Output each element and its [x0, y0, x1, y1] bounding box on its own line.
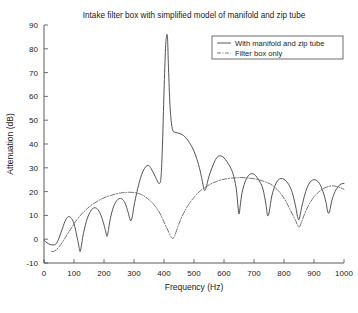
chart-legend: With manifold and zip tubeFilter box onl… — [212, 36, 343, 59]
y-tick-label: -10 — [26, 259, 38, 268]
x-tick-label: 400 — [157, 269, 171, 278]
legend-label-0: With manifold and zip tube — [235, 39, 325, 48]
y-tick-label: 90 — [29, 21, 38, 30]
x-tick-label: 700 — [247, 269, 261, 278]
x-tick-label: 300 — [127, 269, 141, 278]
x-tick-label: 600 — [217, 269, 231, 278]
y-axis-ticks: -100102030405060708090 — [26, 21, 48, 268]
attenuation-line-chart: Intake filter box with simplified model … — [0, 0, 358, 313]
data-series-layer — [44, 34, 344, 251]
x-tick-label: 200 — [97, 269, 111, 278]
x-tick-label: 500 — [187, 269, 201, 278]
series-line-0 — [44, 34, 344, 251]
y-tick-label: 30 — [29, 164, 38, 173]
chart-figure: Intake filter box with simplified model … — [0, 0, 358, 313]
y-tick-label: 40 — [29, 140, 38, 149]
y-tick-label: 80 — [29, 45, 38, 54]
x-axis-ticks: 01002003004005006007008009001000 — [42, 259, 354, 278]
x-tick-label: 800 — [277, 269, 291, 278]
y-tick-label: 70 — [29, 69, 38, 78]
x-tick-label: 1000 — [335, 269, 353, 278]
x-axis-title: Frequency (Hz) — [165, 282, 224, 292]
x-tick-label: 0 — [42, 269, 47, 278]
y-tick-label: 20 — [29, 188, 38, 197]
legend-label-1: Filter box only — [235, 49, 282, 58]
y-tick-label: 10 — [29, 211, 38, 220]
y-tick-label: 50 — [29, 116, 38, 125]
y-axis-title: Attenuation (dB) — [5, 113, 15, 175]
y-tick-label: 60 — [29, 92, 38, 101]
y-tick-label: 0 — [34, 235, 39, 244]
x-tick-label: 900 — [307, 269, 321, 278]
chart-title: Intake filter box with simplified model … — [83, 11, 306, 20]
x-tick-label: 100 — [67, 269, 81, 278]
